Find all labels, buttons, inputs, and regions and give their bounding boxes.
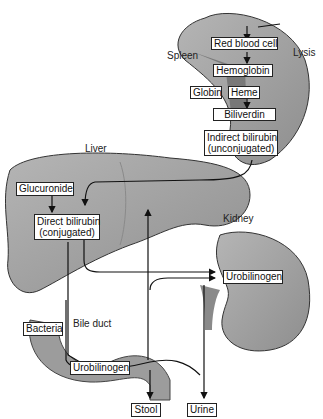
- spleen-label: Spleen: [167, 50, 198, 61]
- kidney-shape: [216, 232, 309, 351]
- lysis-label: Lysis: [293, 47, 315, 58]
- indirect-bilirubin-box: Indirect bilirubin (unconjugated): [204, 130, 278, 156]
- urobilinogen-kidney-box: Urobilinogen: [223, 270, 283, 284]
- hemoglobin-box: Hemoglobin: [213, 64, 273, 77]
- indirect-bilirubin-line2: (unconjugated): [207, 143, 275, 154]
- bacteria-box: Bacteria: [23, 322, 63, 336]
- direct-bilirubin-line2: (conjugated): [37, 227, 97, 238]
- stool-box: Stool: [131, 403, 161, 417]
- biliverdin-box: Biliverdin: [213, 108, 276, 121]
- kidney-label: Kidney: [223, 213, 254, 224]
- diagram-canvas: [0, 0, 323, 419]
- direct-bilirubin-box: Direct bilirubin (conjugated): [34, 214, 100, 240]
- bile-duct-label: Bile duct: [73, 318, 111, 329]
- liver-label: Liver: [85, 143, 107, 154]
- globin-box: Globin: [190, 86, 222, 99]
- red-blood-cell-box: Red blood cell: [211, 37, 278, 50]
- glucuronide-box: Glucuronide: [16, 182, 74, 196]
- heme-box: Heme: [228, 86, 260, 99]
- indirect-bilirubin-line1: Indirect bilirubin: [207, 132, 275, 143]
- urine-box: Urine: [187, 403, 217, 417]
- direct-bilirubin-line1: Direct bilirubin: [37, 216, 97, 227]
- urobilinogen-gut-box: Urobilinogen: [70, 361, 130, 375]
